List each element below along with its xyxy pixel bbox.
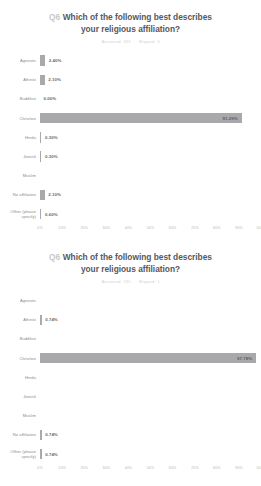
chart-title-line-1: Q6Which of the following best describes: [14, 12, 247, 24]
chart-response-meta: Answered: 333Skipped: 4: [14, 39, 247, 44]
bar-track: 97.78%: [40, 349, 261, 368]
answered-count: Answered: 333: [101, 39, 130, 44]
bar-segment: [40, 75, 45, 86]
bar-value-label: 0.60%: [45, 212, 58, 217]
x-axis-tick-label: 70%: [191, 466, 199, 470]
bar-track: [40, 368, 261, 387]
bar-track: [40, 406, 261, 425]
chart-title: Q6Which of the following best describesy…: [0, 238, 261, 284]
bar-value-label: 2.10%: [48, 77, 61, 82]
category-label: Muslim: [0, 413, 40, 418]
x-axis: 0%10%20%30%40%50%60%70%80%90%100%: [40, 224, 261, 236]
chart-title: Q6Which of the following best describesy…: [0, 0, 261, 44]
chart-bar-row: Jewish: [0, 387, 261, 406]
bar-track: 0.30%: [40, 128, 261, 147]
skipped-count: Skipped: 4: [139, 39, 160, 44]
chart-bar-row: Agnostic: [0, 291, 261, 310]
category-label: Christian: [0, 356, 40, 361]
category-label: Jewish: [0, 394, 40, 399]
chart-bar-row: Christian97.78%: [0, 349, 261, 368]
bar-segment: [40, 132, 41, 143]
x-axis-tick-label: 90%: [235, 466, 243, 470]
chart-bar-row: Atheist0.74%: [0, 310, 261, 329]
chart-bar-row: Other (please specify)0.60%: [0, 205, 261, 224]
category-label: Other (please specify): [0, 209, 40, 219]
x-axis-tick-label: 60%: [169, 466, 177, 470]
category-label: Hindu: [0, 135, 40, 140]
chart-plot-area: Agnostic2.40%Atheist2.10%Buddhist0.00%Ch…: [0, 51, 261, 236]
x-axis-tick-label: 100%: [256, 226, 261, 230]
x-axis-tick-label: 10%: [58, 226, 66, 230]
category-label: Atheist: [0, 77, 40, 82]
bar-track: [40, 329, 261, 348]
chart-title-text-1: Which of the following best describes: [63, 12, 212, 22]
bar-track: 0.74%: [40, 425, 261, 444]
bar-segment: [40, 209, 41, 220]
chart-bar-row: Muslim: [0, 406, 261, 425]
chart-bar-row: No affiliation2.10%: [0, 185, 261, 204]
x-axis-tick-label: 100%: [256, 466, 261, 470]
bar-value-label: 0.30%: [45, 135, 58, 140]
bar-track: [40, 291, 261, 310]
chart-bar-rows: AgnosticAtheist0.74%BuddhistChristian97.…: [0, 291, 261, 464]
chart-response-meta: Answered: 135Skipped: 1: [14, 279, 247, 284]
bar-track: 91.29%: [40, 109, 261, 128]
x-axis-tick-label: 10%: [58, 466, 66, 470]
chart-bar-rows: Agnostic2.40%Atheist2.10%Buddhist0.00%Ch…: [0, 51, 261, 224]
x-axis: 0%10%20%30%40%50%60%70%80%90%100%: [40, 464, 261, 476]
chart-block: Q6Which of the following best describesy…: [0, 238, 261, 486]
x-axis-tick-label: 50%: [147, 466, 155, 470]
chart-title-text-1: Which of the following best describes: [63, 252, 212, 262]
bar-value-label: 0.74%: [45, 432, 58, 437]
bar-value-label: 0.30%: [45, 154, 58, 159]
x-axis-tick-label: 20%: [80, 226, 88, 230]
bar-track: 2.10%: [40, 70, 261, 89]
category-label: Buddhist: [0, 96, 40, 101]
bar-value-label: 2.40%: [49, 58, 62, 63]
bar-value-label: 0.74%: [45, 317, 58, 322]
bar-track: 0.74%: [40, 310, 261, 329]
bar-segment: [40, 449, 42, 460]
category-label: Agnostic: [0, 58, 40, 63]
category-label: Buddhist: [0, 336, 40, 341]
x-axis-tick-label: 0%: [37, 226, 42, 230]
chart-bar-row: Buddhist0.00%: [0, 89, 261, 108]
category-label: Atheist: [0, 317, 40, 322]
category-label: Jewish: [0, 154, 40, 159]
bar-segment: [40, 190, 45, 201]
bar-track: 0.60%: [40, 205, 261, 224]
x-axis-tick-label: 50%: [147, 226, 155, 230]
bar-segment: [40, 315, 42, 326]
x-axis-tick-label: 90%: [235, 226, 243, 230]
bar-track: 2.40%: [40, 51, 261, 70]
x-axis-ticks: 0%10%20%30%40%50%60%70%80%90%100%: [40, 224, 261, 236]
x-axis-tick-label: 80%: [213, 226, 221, 230]
chart-bar-row: Atheist2.10%: [0, 70, 261, 89]
bar-segment: [40, 151, 41, 162]
x-axis-tick-label: 70%: [191, 226, 199, 230]
bar-segment: [40, 430, 42, 441]
bar-track: 2.10%: [40, 185, 261, 204]
bar-track: [40, 387, 261, 406]
x-axis-tick-label: 80%: [213, 466, 221, 470]
bar-value-label: 2.10%: [48, 192, 61, 197]
x-axis-tick-label: 20%: [80, 466, 88, 470]
chart-title-line-2: your religious affiliation?: [14, 24, 247, 36]
answered-count: Answered: 135: [101, 279, 130, 284]
bar-track: [40, 166, 261, 185]
category-label: Christian: [0, 116, 40, 121]
category-label: No affiliation: [0, 192, 40, 197]
x-axis-tick-label: 40%: [125, 466, 133, 470]
bar-segment: 91.29%: [40, 113, 242, 124]
chart-bar-row: Buddhist: [0, 329, 261, 348]
chart-bar-row: Other (please specify)0.74%: [0, 445, 261, 464]
x-axis-tick-label: 0%: [37, 466, 42, 470]
chart-block: Q6Which of the following best describesy…: [0, 0, 261, 238]
bar-value-label: 0.00%: [44, 96, 57, 101]
survey-charts-root: Q6Which of the following best describesy…: [0, 0, 261, 486]
chart-bar-row: Agnostic2.40%: [0, 51, 261, 70]
bar-value-label: 97.78%: [237, 356, 252, 361]
chart-plot-area: AgnosticAtheist0.74%BuddhistChristian97.…: [0, 291, 261, 476]
question-number: Q6: [49, 12, 60, 22]
chart-title-line-2: your religious affiliation?: [14, 264, 247, 276]
